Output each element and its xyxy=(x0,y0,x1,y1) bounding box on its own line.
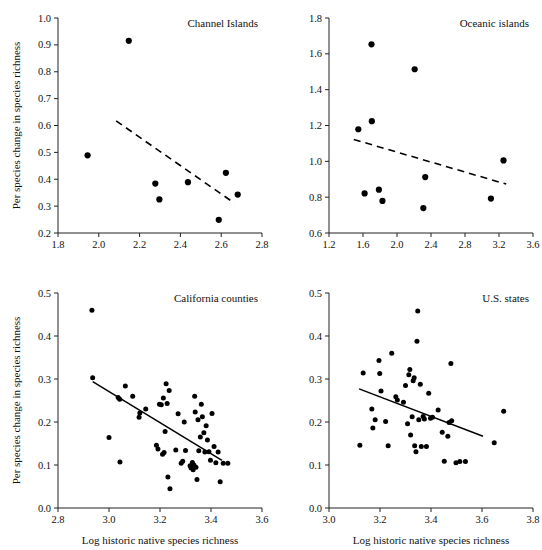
x-tick-label: 1.8 xyxy=(51,239,64,250)
y-tick-label: 0.1 xyxy=(38,460,51,471)
y-tick-label: 0.6 xyxy=(309,228,322,239)
panel-california-counties: 0.00.10.20.30.40.52.83.03.23.43.6Califor… xyxy=(0,275,271,550)
y-tick-label: 0.0 xyxy=(309,503,322,514)
x-tick-label: 2.4 xyxy=(174,239,188,250)
data-point xyxy=(155,447,160,452)
y-tick-label: 0.2 xyxy=(38,417,51,428)
data-point xyxy=(418,382,423,387)
data-point xyxy=(492,440,497,445)
data-point xyxy=(407,367,412,372)
x-tick-label: 2.4 xyxy=(424,239,438,250)
y-tick-label: 0.8 xyxy=(309,192,322,203)
data-point xyxy=(370,426,375,431)
data-point xyxy=(419,444,424,449)
y-tick-label: 0.4 xyxy=(38,174,52,185)
data-point xyxy=(192,394,197,399)
data-point xyxy=(162,450,167,455)
plot-area: 0.20.30.40.50.60.70.80.91.01.82.02.22.42… xyxy=(0,0,271,275)
y-tick-label: 0.5 xyxy=(38,288,51,299)
data-point xyxy=(379,198,385,204)
data-point xyxy=(376,187,382,193)
y-tick-label: 1.0 xyxy=(309,156,322,167)
data-point xyxy=(376,358,381,363)
trend-line xyxy=(116,121,234,203)
data-point xyxy=(406,372,411,377)
y-tick-label: 1.4 xyxy=(309,84,323,95)
x-tick-label: 3.6 xyxy=(526,239,539,250)
data-point xyxy=(422,174,428,180)
data-point xyxy=(416,417,421,422)
x-axis-title: Log historic native species richness xyxy=(353,534,509,546)
y-tick-label: 0.8 xyxy=(38,66,51,77)
data-point xyxy=(395,398,400,403)
data-point xyxy=(167,388,172,393)
data-point xyxy=(361,370,366,375)
data-point xyxy=(137,415,142,420)
data-point xyxy=(194,477,199,482)
data-point xyxy=(84,152,90,158)
y-tick-label: 0.3 xyxy=(309,374,322,385)
data-point xyxy=(457,459,462,464)
y-tick-label: 0.3 xyxy=(38,201,51,212)
x-tick-label: 1.6 xyxy=(356,239,369,250)
data-point xyxy=(377,371,382,376)
data-point xyxy=(212,444,217,449)
data-point xyxy=(201,430,206,435)
data-point xyxy=(500,157,506,163)
data-point xyxy=(408,432,413,437)
data-point xyxy=(449,418,454,423)
trend-line xyxy=(354,139,506,184)
data-point xyxy=(126,38,132,44)
data-point xyxy=(415,309,420,314)
x-tick-label: 3.4 xyxy=(204,514,218,525)
data-point xyxy=(185,179,191,185)
panel-title: California counties xyxy=(174,292,258,304)
data-point xyxy=(362,190,368,196)
data-point xyxy=(422,416,427,421)
data-point xyxy=(205,438,210,443)
x-tick-label: 3.4 xyxy=(424,514,438,525)
data-point xyxy=(200,414,205,419)
x-tick-label: 2.8 xyxy=(458,239,471,250)
data-point xyxy=(401,400,406,405)
x-tick-label: 3.6 xyxy=(475,514,488,525)
data-point xyxy=(436,407,441,412)
data-point xyxy=(405,421,410,426)
data-point xyxy=(176,411,181,416)
data-point xyxy=(165,475,170,480)
y-tick-label: 0.6 xyxy=(38,120,51,131)
data-point xyxy=(89,308,94,313)
data-point xyxy=(440,430,445,435)
data-point xyxy=(159,402,164,407)
data-point xyxy=(137,410,142,415)
data-point xyxy=(173,447,178,452)
data-point xyxy=(426,391,431,396)
data-point xyxy=(130,394,135,399)
data-point xyxy=(164,381,169,386)
data-point xyxy=(161,395,166,400)
data-point xyxy=(448,361,453,366)
data-point xyxy=(199,402,204,407)
data-point xyxy=(198,435,203,440)
y-tick-label: 0.7 xyxy=(38,93,51,104)
data-point xyxy=(488,196,494,202)
data-point xyxy=(195,417,200,422)
y-tick-label: 0.9 xyxy=(38,39,51,50)
data-point xyxy=(389,351,394,356)
data-point xyxy=(218,479,223,484)
data-point xyxy=(412,443,417,448)
data-point xyxy=(430,415,435,420)
data-point xyxy=(117,397,122,402)
x-tick-label: 3.2 xyxy=(373,514,386,525)
data-point xyxy=(167,486,172,491)
axis-spine xyxy=(58,293,262,508)
y-tick-label: 1.2 xyxy=(309,120,322,131)
trend-line xyxy=(359,389,483,436)
data-point xyxy=(357,443,362,448)
y-tick-label: 0.5 xyxy=(38,147,51,158)
data-point xyxy=(413,449,418,454)
x-tick-label: 3.2 xyxy=(492,239,505,250)
data-point xyxy=(412,375,417,380)
data-point xyxy=(90,375,95,380)
data-point xyxy=(445,434,450,439)
